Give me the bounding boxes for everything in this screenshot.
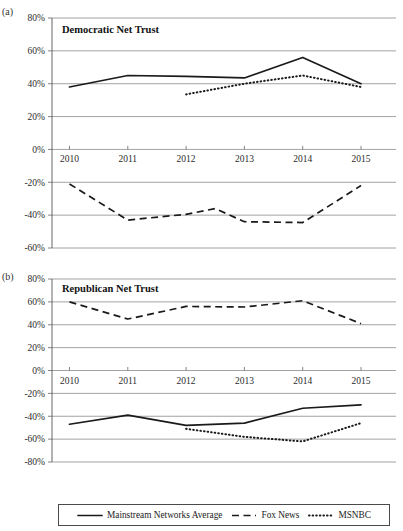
x-axis-tick-label: 2013	[235, 154, 254, 164]
series-line-solid	[69, 405, 361, 426]
x-axis-tick-label: 2014	[293, 376, 312, 386]
series-line-dashed	[69, 184, 361, 223]
y-axis-tick-label: 60%	[28, 46, 46, 56]
y-axis-tick-label: 80%	[28, 13, 46, 23]
chart-panel-a-democratic-net-trust: (a) 80%60%40%20%0%-20%-40%-60%2010201120…	[0, 0, 403, 265]
y-axis-tick-label: 60%	[28, 297, 46, 307]
x-axis-tick-label: 2011	[118, 376, 137, 386]
y-axis-tick-label: 0%	[32, 145, 45, 155]
panel-title: Republican Net Trust	[62, 283, 159, 294]
y-axis-tick-label: 20%	[28, 112, 46, 122]
y-axis-tick-label: 20%	[28, 343, 46, 353]
y-axis-tick-label: 40%	[28, 320, 46, 330]
x-axis-tick-label: 2011	[118, 154, 137, 164]
x-axis-tick-label: 2012	[177, 376, 196, 386]
y-axis-tick-label: -80%	[24, 457, 45, 467]
y-axis-tick-label: -40%	[24, 210, 45, 220]
x-axis-tick-label: 2015	[352, 376, 371, 386]
x-axis-tick-label: 2010	[60, 376, 79, 386]
figure-two-panel-net-trust: (a) 80%60%40%20%0%-20%-40%-60%2010201120…	[0, 0, 403, 531]
chart-legend: Mainstream Networks AverageFox NewsMSNBC	[58, 504, 390, 526]
x-axis-tick-label: 2014	[293, 154, 312, 164]
y-axis-tick-label: 80%	[28, 274, 46, 284]
legend-label: Fox News	[261, 510, 299, 520]
legend-entry: Fox News	[231, 510, 299, 520]
x-axis-tick-label: 2012	[177, 154, 196, 164]
legend-entry: Mainstream Networks Average	[77, 510, 222, 520]
y-axis-tick-label: -20%	[24, 178, 45, 188]
chart-panel-b-republican-net-trust: (b) 80%60%40%20%0%-20%-40%-60%-80%201020…	[0, 265, 403, 490]
legend-label: Mainstream Networks Average	[107, 510, 222, 520]
panel-a-plot-svg: 80%60%40%20%0%-20%-40%-60%20102011201220…	[0, 0, 403, 265]
x-axis-tick-label: 2010	[60, 154, 79, 164]
x-axis-tick-label: 2015	[352, 154, 371, 164]
panel-title: Democratic Net Trust	[62, 24, 159, 35]
series-line-solid	[69, 57, 361, 87]
y-axis-tick-label: -40%	[24, 412, 45, 422]
y-axis-tick-label: -60%	[24, 434, 45, 444]
legend-entry: MSNBC	[308, 510, 371, 520]
y-axis-tick-label: -20%	[24, 389, 45, 399]
dotted-line-swatch-icon	[308, 511, 334, 520]
series-line-dotted	[186, 76, 361, 95]
y-axis-tick-label: 40%	[28, 79, 46, 89]
y-axis-tick-label: 0%	[32, 366, 45, 376]
y-axis-tick-label: -60%	[24, 243, 45, 253]
legend-label: MSNBC	[338, 510, 371, 520]
dashed-line-swatch-icon	[231, 511, 257, 520]
x-axis-tick-label: 2013	[235, 376, 254, 386]
panel-b-plot-svg: 80%60%40%20%0%-20%-40%-60%-80%2010201120…	[0, 265, 403, 490]
series-line-dotted	[186, 423, 361, 441]
solid-line-swatch-icon	[77, 511, 103, 520]
series-line-dashed	[69, 301, 361, 324]
